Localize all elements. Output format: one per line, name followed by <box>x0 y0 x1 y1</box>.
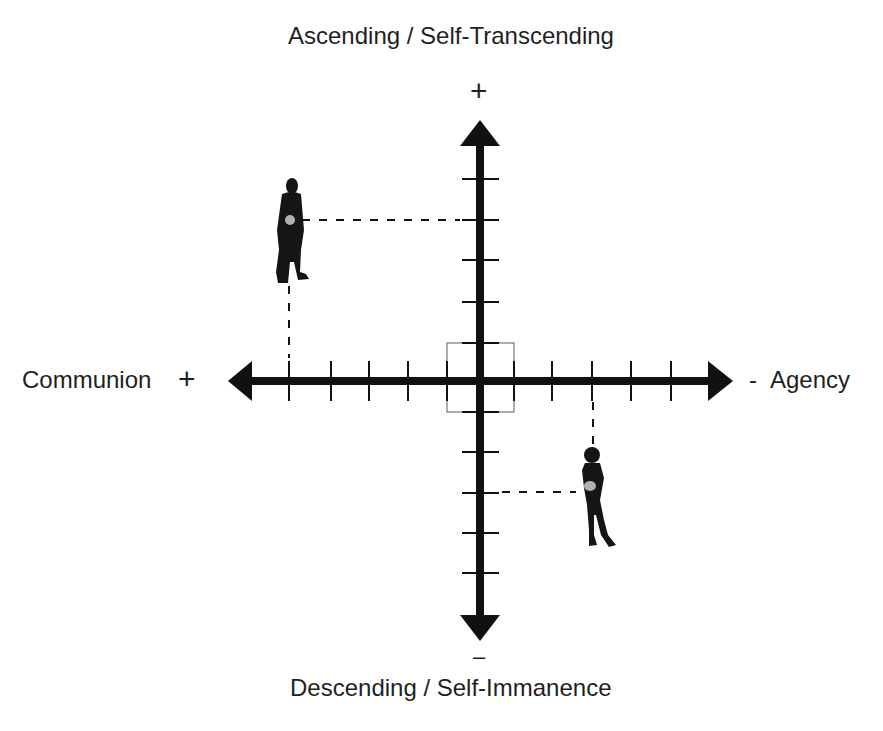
arrow-right-icon <box>708 361 733 401</box>
man-figure-icon <box>276 178 309 283</box>
woman-marker <box>584 481 596 491</box>
quadrant-diagram <box>0 0 883 731</box>
man-marker <box>285 215 295 225</box>
woman-figure-icon <box>582 447 616 547</box>
arrow-down-icon <box>460 615 500 641</box>
arrow-up-icon <box>460 120 500 146</box>
arrow-left-icon <box>228 361 252 401</box>
